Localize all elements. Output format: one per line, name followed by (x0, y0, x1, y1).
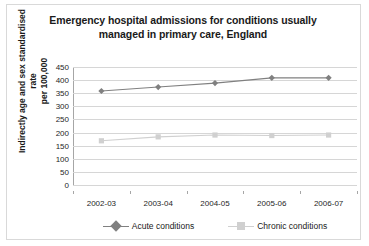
data-point-diamond (98, 88, 104, 94)
legend-key-square-icon (228, 221, 254, 231)
plot-area: 050100150200250300350400450 2002-032003-… (73, 61, 357, 185)
chart-title-line-2: managed in primary care, England (33, 27, 333, 41)
data-point-diamond (212, 80, 218, 86)
legend-entry-2[interactable]: Chronic conditions (228, 221, 327, 231)
legend-key-diamond-icon (103, 221, 129, 231)
y-axis-title: Indirectly age and sex standardised rate… (17, 1, 45, 161)
y-axis-tick-label: 50 (60, 167, 69, 176)
y-axis-title-line-2: per 100,000 (39, 1, 50, 161)
series-2 (99, 132, 331, 143)
legend-entry-1[interactable]: Acute conditions (103, 221, 194, 231)
x-axis-tick-mark (300, 191, 301, 194)
y-axis-tick-label: 450 (56, 63, 69, 72)
y-axis-tick-label: 350 (56, 89, 69, 98)
series-1 (98, 75, 331, 94)
data-point-square (156, 134, 161, 139)
data-point-square (326, 132, 331, 137)
data-point-diamond (155, 84, 161, 90)
plot-inner: 050100150200250300350400450 2002-032003-… (73, 67, 357, 185)
data-point-square (99, 138, 104, 143)
x-axis-tick-mark (130, 191, 131, 194)
series-layer (73, 67, 357, 191)
y-axis-tick-label: 250 (56, 115, 69, 124)
chart-legend: Acute conditionsChronic conditions (73, 221, 357, 231)
chart-title: Emergency hospital admissions for condit… (33, 13, 333, 41)
x-axis-tick-label: 2003-04 (144, 199, 173, 208)
y-axis-tick-label: 200 (56, 128, 69, 137)
x-axis-tick-label: 2005-06 (257, 199, 286, 208)
x-axis-tick-label: 2004-05 (200, 199, 229, 208)
data-point-square (212, 132, 217, 137)
legend-label: Chronic conditions (257, 221, 327, 231)
y-axis-tick-label: 150 (56, 141, 69, 150)
y-axis-tick-label: 0 (65, 181, 69, 190)
x-axis-tick-mark (357, 191, 358, 194)
x-axis-tick-label: 2006-07 (314, 199, 343, 208)
y-axis-tick-label: 100 (56, 154, 69, 163)
legend-key-marker (237, 222, 245, 230)
data-point-square (269, 133, 274, 138)
y-axis-title-line-1: Indirectly age and sex standardised rate (17, 1, 39, 161)
x-axis-tick-label: 2002-03 (87, 199, 116, 208)
legend-key-marker (110, 220, 121, 231)
data-point-diamond (269, 75, 275, 81)
y-axis-tick-label: 300 (56, 102, 69, 111)
x-axis-tick-mark (187, 191, 188, 194)
chart-title-line-1: Emergency hospital admissions for condit… (33, 13, 333, 27)
y-axis-tick-label: 400 (56, 76, 69, 85)
chart-container: Emergency hospital admissions for condit… (6, 4, 361, 240)
x-axis-tick-mark (243, 191, 244, 194)
data-point-diamond (326, 75, 332, 81)
x-axis-tick-mark (73, 191, 74, 194)
legend-label: Acute conditions (132, 221, 194, 231)
